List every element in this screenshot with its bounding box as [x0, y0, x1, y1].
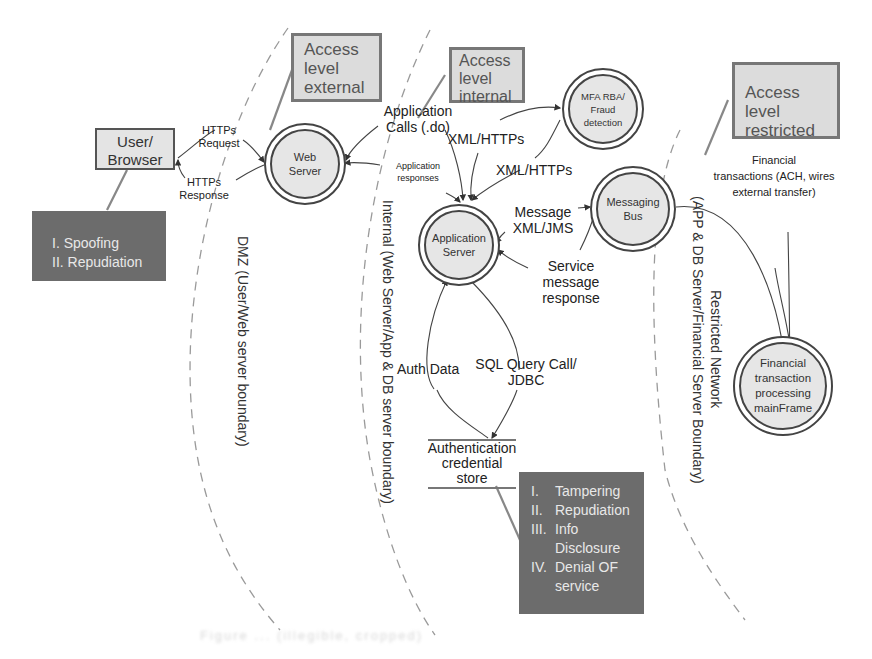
access-external-line3: external [304, 78, 379, 97]
user-line2: Browser [97, 151, 173, 169]
mainframe-line1: Financial [754, 356, 812, 371]
msg-bus-line1: Messaging [606, 195, 659, 209]
https-request-line2: Request [193, 137, 245, 150]
web-server-line1: Web [289, 150, 321, 164]
financial-tx-line3: external transfer) [704, 184, 844, 200]
store-threat-2: II.Repudiation [531, 501, 644, 520]
access-level-restricted-box: Access level restricted [732, 62, 840, 139]
financial-tx-line1: Financial [704, 152, 844, 168]
figure-caption: Figure ... (illegible, cropped) [200, 628, 423, 643]
threat-model-diagram: Access level external Access level inter… [0, 0, 872, 659]
app-server-line2: Server [432, 245, 486, 259]
store-line1: Authentication [426, 441, 518, 456]
mfa-line3: detection [581, 116, 625, 129]
message-jms-line1: Message [510, 204, 576, 220]
flow-auth-data: Auth Data [397, 361, 459, 377]
store-threat-1: I.Tampering [531, 482, 644, 501]
app-calls-line1: Application [378, 103, 458, 119]
app-responses-line1: Application [388, 160, 448, 172]
store-line2: credential [426, 456, 518, 471]
data-store-bottom-line [428, 487, 516, 489]
flow-https-response: HTTPs Response [173, 176, 235, 202]
access-restricted-line1: Access level [745, 83, 837, 121]
flow-financial-transactions: Financial transactions (ACH, wires exter… [704, 152, 844, 200]
https-response-line2: Response [173, 189, 235, 202]
zone-label-internal: Internal (Web Server/App & DB server bou… [380, 200, 396, 504]
https-response-line1: HTTPs [173, 176, 235, 189]
app-server-line1: Application [432, 231, 486, 245]
message-jms-line2: XML/JMS [510, 220, 576, 236]
store-line3: store [426, 471, 518, 486]
store-threat-3: III.Info [531, 520, 644, 539]
user-browser-entity: User/ Browser [95, 128, 175, 170]
access-external-line1: Access [304, 40, 379, 59]
flow-xml-https-2: XML/HTTPs [496, 162, 572, 178]
auth-credential-store: Authentication credential store [426, 441, 518, 486]
app-responses-line2: responses [388, 172, 448, 184]
msg-bus-line2: Bus [606, 209, 659, 223]
user-line1: User/ [97, 133, 173, 151]
access-internal-line3: internal [459, 88, 522, 106]
mainframe-process: Financial transaction processing mainFra… [733, 336, 833, 436]
access-restricted-line2: restricted [745, 121, 837, 140]
mfa-line2: Fraud [581, 103, 625, 116]
access-internal-line1: Access [459, 52, 522, 70]
sql-query-line1: SQL Query Call/ [467, 356, 585, 372]
user-threat-box: I. Spoofing II. Repudiation [32, 211, 166, 281]
zone-label-restricted-1: Restricted Network [708, 290, 724, 408]
flow-xml-https-1: XML/HTTPs [448, 131, 524, 147]
app-calls-line2: Calls (.do) [378, 119, 458, 135]
mainframe-line4: mainFrame [754, 401, 812, 416]
flow-application-responses: Application responses [388, 160, 448, 184]
service-response-line1: Service [534, 258, 608, 274]
store-threat-4b: service [531, 577, 644, 596]
sql-query-line2: JDBC [467, 372, 585, 388]
store-threat-box: I.Tampering II.Repudiation III.Info Disc… [519, 472, 644, 614]
service-response-line2: message [534, 274, 608, 290]
store-threat-4: IV.Denial OF [531, 558, 644, 577]
access-external-line2: level [304, 59, 379, 78]
access-level-internal-box: Access level internal [449, 47, 525, 103]
access-internal-line2: level [459, 70, 522, 88]
flow-service-message-response: Service message response [534, 258, 608, 306]
service-response-line3: response [534, 290, 608, 306]
web-server-process: Web Server [264, 123, 346, 205]
zone-label-dmz: DMZ (User/Web server boundary) [235, 236, 251, 447]
flow-sql-query-jdbc: SQL Query Call/ JDBC [467, 356, 585, 388]
flow-message-xml-jms: Message XML/JMS [510, 204, 576, 236]
mainframe-line2: transaction [754, 371, 812, 386]
web-server-line2: Server [289, 164, 321, 178]
mfa-fraud-detection-process: MFA RBA/ Fraud detection [562, 68, 644, 150]
user-threat-1: I. Spoofing [52, 234, 166, 253]
messaging-bus-process: Messaging Bus [590, 166, 676, 252]
store-threat-3b: Disclosure [531, 539, 644, 558]
mainframe-line3: processing [754, 386, 812, 401]
application-server-process: Application Server [418, 204, 500, 286]
financial-tx-line2: transactions (ACH, wires [704, 168, 844, 184]
user-threat-2: II. Repudiation [52, 253, 166, 272]
zone-label-restricted-2: (APP & DB Server/Financial Server Bounda… [690, 196, 706, 484]
mfa-line1: MFA RBA/ [581, 90, 625, 103]
flow-https-request: HTTPs Request [193, 124, 245, 150]
flow-application-calls: Application Calls (.do) [378, 103, 458, 135]
https-request-line1: HTTPs [193, 124, 245, 137]
access-level-external-box: Access level external [291, 33, 382, 102]
